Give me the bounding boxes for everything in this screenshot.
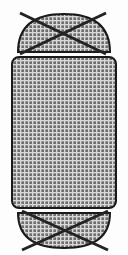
central-body-fill (10, 55, 120, 211)
central-body-group (10, 55, 120, 211)
diagram-canvas: Vertically symmetric hatched vessel: dom… (0, 0, 128, 255)
vessel-figure (0, 0, 128, 255)
